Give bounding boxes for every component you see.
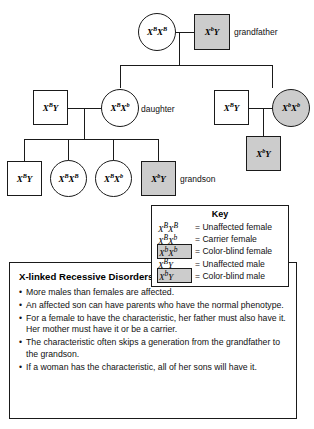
individual-grandfather: XbY bbox=[194, 14, 230, 50]
info-bullet-list: More males than females are affected. An… bbox=[19, 287, 287, 373]
key-description: = Color-blind female bbox=[192, 246, 272, 256]
individual-son-in-law-left: XBY bbox=[33, 90, 68, 125]
genotype-child-1: XBY bbox=[17, 174, 32, 184]
drop-line-daughter-left bbox=[120, 65, 121, 88]
label-daughter: daughter bbox=[141, 104, 175, 114]
key-description: = Unaffected male bbox=[192, 259, 265, 269]
key-box: Key XBXB = Unaffected female XBXb = Carr… bbox=[151, 205, 289, 287]
info-title: X-linked Recessive Disorders bbox=[19, 271, 169, 283]
key-row: XbY = Color-blind male bbox=[157, 270, 283, 282]
individual-daughter-left: XBXb bbox=[101, 89, 139, 127]
info-bullet: For a female to have the characteristic,… bbox=[19, 313, 287, 336]
key-row: XBXB = Unaffected female bbox=[157, 221, 283, 233]
key-genotype-affected-male: XbY bbox=[157, 268, 192, 283]
info-bullet: An affected son can have parents who hav… bbox=[19, 300, 287, 311]
info-bullet: The characteristic often skips a generat… bbox=[19, 337, 287, 360]
individual-child-2: XBXB bbox=[50, 160, 87, 197]
info-bullet: If a woman has the characteristic, all o… bbox=[19, 362, 287, 373]
info-bullet: More males than females are affected. bbox=[19, 287, 287, 298]
drop-line-child-3 bbox=[113, 139, 114, 161]
individual-grandson-right: XbY bbox=[246, 136, 281, 171]
key-description: = Color-blind male bbox=[192, 271, 265, 281]
genotype-son-in-law-right: XBY bbox=[224, 103, 239, 113]
label-grandson: grandson bbox=[180, 174, 215, 184]
genotype-grandfather: XbY bbox=[205, 27, 219, 37]
genotype-daughter-right: XbXb bbox=[282, 103, 300, 113]
sibship-bar-gen1 bbox=[120, 65, 273, 66]
drop-line-child-2 bbox=[68, 139, 69, 161]
sibship-bar-gen2-left bbox=[24, 139, 158, 140]
descent-line-gen1 bbox=[179, 32, 180, 65]
drop-line-child-1 bbox=[24, 139, 25, 161]
genotype-child-2: XBXB bbox=[59, 174, 79, 184]
individual-daughter-right: XbXb bbox=[272, 89, 310, 127]
individual-child-3: XBXb bbox=[95, 160, 132, 197]
key-genotype: XBXB bbox=[157, 221, 192, 234]
drop-line-child-4 bbox=[158, 139, 159, 161]
drop-line-daughter-right bbox=[272, 65, 273, 88]
individual-son-in-law-right: XBY bbox=[214, 90, 249, 125]
key-title: Key bbox=[157, 209, 283, 219]
label-grandfather: grandfather bbox=[234, 27, 277, 37]
key-description: = Carrier female bbox=[192, 234, 257, 244]
individual-grandmother: XBXB bbox=[138, 13, 176, 51]
descent-line-gen2-left bbox=[84, 108, 85, 139]
genotype-child-4: XbY bbox=[151, 174, 165, 184]
key-row: XbXb = Color-blind female bbox=[157, 245, 283, 257]
genotype-daughter-left: XBXb bbox=[111, 103, 130, 113]
key-description: = Unaffected female bbox=[192, 222, 272, 232]
individual-child-1: XBY bbox=[7, 161, 42, 196]
genotype-grandson-right: XbY bbox=[256, 149, 270, 159]
individual-child-4: XbY bbox=[141, 161, 176, 196]
genotype-son-in-law-left: XBY bbox=[43, 103, 58, 113]
genotype-child-3: XBXb bbox=[104, 174, 123, 184]
genotype-grandmother: XBXB bbox=[147, 27, 167, 37]
descent-line-gen2-right bbox=[263, 108, 264, 136]
